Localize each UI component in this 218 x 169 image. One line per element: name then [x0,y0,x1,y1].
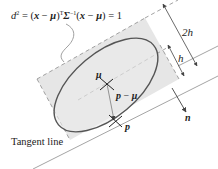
mu-label: μ [95,69,102,80]
tangent-line-label: Tangent line [11,136,63,147]
ellipse-equation: d2 = (x − μ)TΣ−1(x − μ) = 1 [11,10,122,22]
outer-parallel-line [178,46,218,66]
two-h-label: 2h [182,26,194,38]
h-label: h [178,52,184,64]
normal-vector-n [172,88,186,112]
p-minus-mu-label: p − μ [115,90,138,101]
outer-dashed-line [145,0,178,18]
p-label: p [124,121,130,132]
equation-leader [61,24,74,62]
n-label: n [185,112,191,123]
ellipse-tangent-diagram: d2 = (x − μ)TΣ−1(x − μ) = 1 2h h μ p − μ… [0,0,218,169]
